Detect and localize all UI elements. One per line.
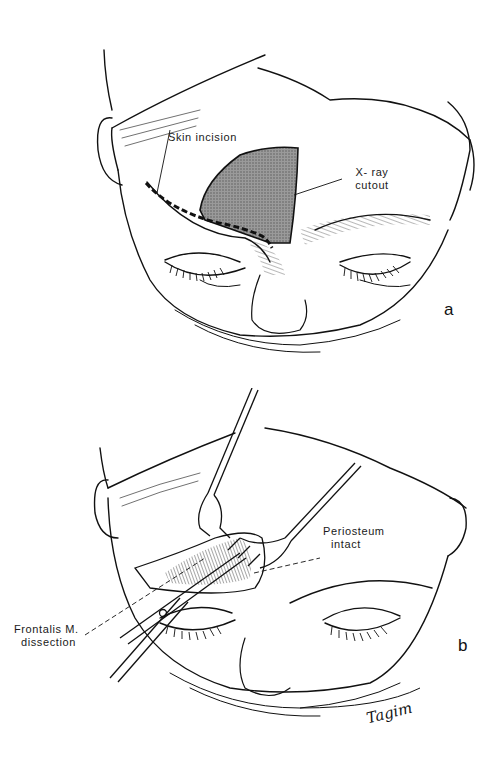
label-frontalis-dissection: Frontalis M. dissection <box>14 623 79 649</box>
label-periosteum-line2: intact <box>323 538 385 551</box>
xray-cutout-shape <box>200 147 298 243</box>
face-illustration-a <box>0 0 494 388</box>
panel-letter-a: a <box>444 300 453 320</box>
label-periosteum-intact: Periosteum intact <box>323 525 385 551</box>
face-illustration-b <box>0 388 494 776</box>
retractor-left <box>199 388 258 538</box>
panel-b: Periosteum intact Frontalis M. dissectio… <box>0 388 494 776</box>
label-xray-line2: cutout <box>342 179 402 192</box>
label-frontalis-line1: Frontalis M. <box>14 623 79 636</box>
label-xray-cutout: X- ray cutout <box>342 166 402 192</box>
panel-a: Skin incision X- ray cutout a <box>0 0 494 388</box>
eyelashes-left <box>170 265 224 281</box>
eyelashes-right-b <box>331 627 387 641</box>
label-periosteum-line1: Periosteum <box>323 525 385 538</box>
panel-letter-b: b <box>458 636 467 656</box>
label-xray-line1: X- ray <box>342 166 402 179</box>
label-skin-incision: Skin incision <box>168 131 237 144</box>
label-frontalis-line2: dissection <box>14 636 79 649</box>
